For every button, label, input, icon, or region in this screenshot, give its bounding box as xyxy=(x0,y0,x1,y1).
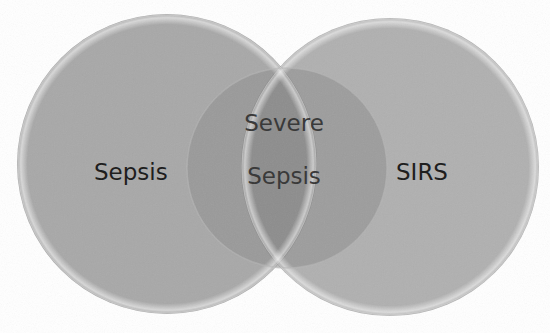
severe-sepsis-label-line1: Severe xyxy=(214,108,354,138)
venn-diagram: Sepsis SIRS Severe Sepsis xyxy=(0,0,550,333)
sirs-label: SIRS xyxy=(396,161,448,184)
severe-sepsis-label: Severe Sepsis xyxy=(214,108,354,191)
sepsis-label: Sepsis xyxy=(94,161,168,184)
severe-sepsis-label-line2: Sepsis xyxy=(214,161,354,191)
